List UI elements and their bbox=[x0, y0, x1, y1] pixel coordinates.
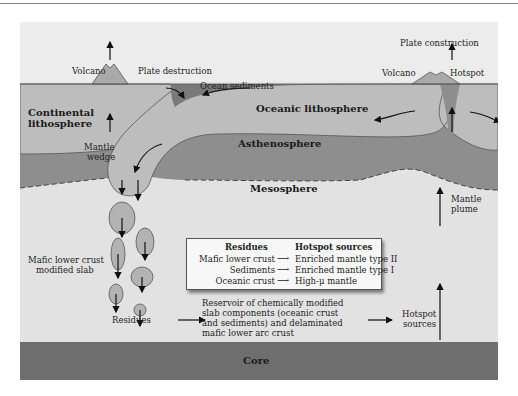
legend-residue-3: Oceanic crust bbox=[215, 276, 275, 286]
label-ocean-sediments: Ocean sediments bbox=[200, 81, 274, 91]
label-reservoir-2: slab components (oceanic crust bbox=[202, 308, 338, 318]
legend-header-residues: Residues bbox=[225, 242, 268, 252]
label-core: Core bbox=[243, 356, 269, 366]
label-mantle-plume-2: plume bbox=[451, 204, 478, 214]
subduction-hotspot-diagram: Volcano Plate destruction Ocean sediment… bbox=[20, 22, 498, 380]
label-reservoir-1: Reservoir of chemically modified bbox=[202, 298, 344, 308]
label-continental-lithosphere-1: Continental bbox=[28, 108, 94, 118]
label-mafic-slab-1: Mafic lower crust bbox=[28, 255, 104, 265]
legend-source-1: Enriched mantle type II bbox=[295, 254, 397, 264]
label-volcano-right: Volcano bbox=[382, 68, 416, 78]
label-volcano-left: Volcano bbox=[72, 66, 106, 76]
label-plate-destruction: Plate destruction bbox=[138, 66, 212, 76]
label-mantle-plume-1: Mantle bbox=[451, 194, 481, 204]
label-residues: Residues bbox=[112, 315, 151, 325]
legend-arrow-3: ⟶ bbox=[277, 275, 289, 285]
legend-arrow-1: ⟶ bbox=[277, 253, 289, 263]
label-mantle-wedge-2: wedge bbox=[87, 152, 115, 162]
legend-source-2: Enriched mantle type I bbox=[295, 265, 394, 275]
label-oceanic-lithosphere: Oceanic lithosphere bbox=[256, 104, 368, 114]
legend-header-hotspot-sources: Hotspot sources bbox=[295, 242, 372, 252]
label-mafic-slab-2: modified slab bbox=[36, 265, 94, 275]
label-reservoir-4: mafic lower arc crust bbox=[202, 328, 294, 338]
label-continental-lithosphere-2: lithosphere bbox=[28, 119, 92, 129]
label-mantle-wedge-1: Mantle bbox=[84, 142, 114, 152]
label-asthenosphere: Asthenosphere bbox=[238, 139, 321, 149]
label-plate-construction: Plate construction bbox=[400, 38, 479, 48]
label-reservoir-3: and sediments) and delaminated bbox=[202, 318, 343, 328]
label-mesosphere: Mesosphere bbox=[250, 184, 318, 194]
residues-legend-box: Residues Hotspot sources Mafic lower cru… bbox=[186, 238, 382, 290]
legend-residue-2: Sediments bbox=[230, 265, 275, 275]
label-hotspot-sources-2: sources bbox=[403, 319, 436, 329]
label-hotspot-sources-1: Hotspot bbox=[402, 309, 436, 319]
top-rule bbox=[0, 3, 518, 4]
legend-source-3: High-μ mantle bbox=[295, 276, 357, 286]
legend-residue-1: Mafic lower crust bbox=[199, 254, 275, 264]
legend-arrow-2: ⟶ bbox=[277, 264, 289, 274]
label-hotspot: Hotspot bbox=[450, 68, 484, 78]
